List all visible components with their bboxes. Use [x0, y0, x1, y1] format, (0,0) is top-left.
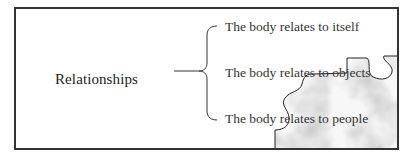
diagram-frame: Relationships The body relates to itself…: [14, 7, 399, 150]
root-node-label: Relationships: [55, 71, 138, 88]
branch-label-people: The body relates to people: [225, 111, 368, 127]
branch-label-objects: The body relates to objects: [225, 65, 370, 81]
branch-label-itself: The body relates to itself: [225, 19, 359, 35]
